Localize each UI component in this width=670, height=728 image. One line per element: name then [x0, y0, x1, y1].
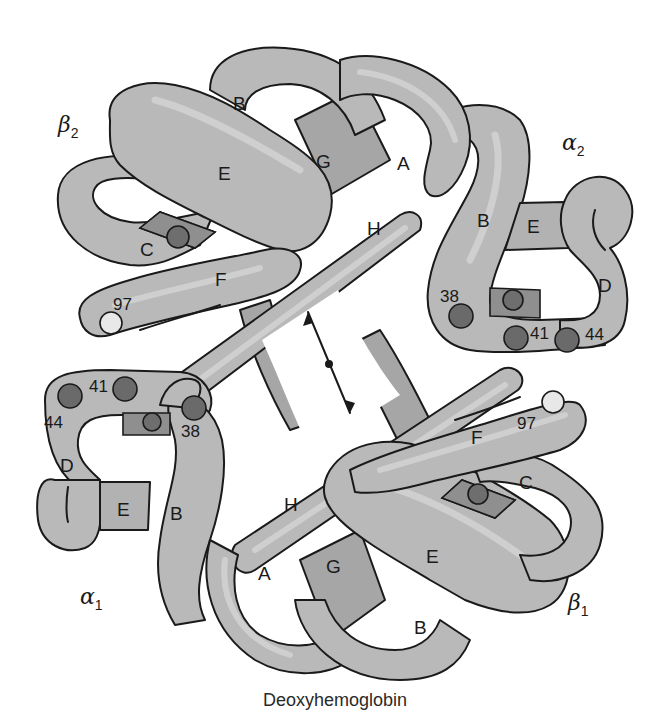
helix-label-alpha1-A: A — [258, 563, 271, 584]
residue-label-alpha2-41: 41 — [530, 324, 549, 343]
heme-iron-alpha2 — [503, 290, 523, 310]
residue-label-alpha1-44: 44 — [44, 413, 63, 432]
figure-caption: Deoxyhemoglobin — [0, 690, 670, 711]
residue-alpha2-44 — [555, 328, 579, 352]
helix-label-alpha2-E: E — [527, 216, 540, 237]
helix-label-alpha1-E: E — [117, 499, 130, 520]
dyad-axis-point — [325, 360, 333, 368]
helix-label-beta2-B: B — [233, 93, 246, 114]
heme-iron-beta1 — [468, 484, 488, 504]
heme-iron-alpha1 — [143, 413, 161, 431]
residue-alpha2-38 — [449, 304, 473, 328]
subunit-label-beta2: β2 — [57, 112, 79, 141]
residue-label-alpha2-44: 44 — [585, 325, 604, 344]
residue-label-beta2-97: 97 — [113, 295, 132, 314]
subunit-label-alpha1: α1 — [80, 584, 103, 613]
helix-label-alpha2-H: H — [367, 218, 381, 239]
helix-label-alpha1-D: D — [60, 455, 74, 476]
helix-label-beta2-F: F — [215, 269, 227, 290]
heme-iron-beta2 — [167, 226, 189, 248]
residue-alpha1-41 — [113, 377, 137, 401]
residue-label-alpha2-38: 38 — [440, 287, 459, 306]
helix-label-beta1-G: G — [326, 556, 341, 577]
helix-label-alpha1-H: H — [284, 494, 298, 515]
subunit-label-beta1: β1 — [567, 590, 589, 619]
helix-label-beta2-C: C — [140, 239, 154, 260]
subunit-beta1 — [295, 391, 603, 680]
subunit-label-alpha2: α2 — [562, 130, 585, 159]
helix-label-alpha2-A: A — [397, 153, 410, 174]
helix-label-alpha2-D: D — [598, 275, 612, 296]
residue-label-alpha1-41: 41 — [89, 377, 108, 396]
helix-label-beta1-C: C — [519, 472, 533, 493]
helix-label-beta2-G: G — [316, 151, 331, 172]
helix-label-beta1-B: B — [414, 617, 427, 638]
deoxyhemoglobin-diagram: β2 α2 α1 β1 B E C F G 97 A H B E D 38 41… — [0, 0, 670, 728]
heme-group-alpha1 — [123, 413, 170, 435]
helix-label-beta1-E: E — [426, 546, 439, 567]
residue-label-beta1-97: 97 — [517, 414, 536, 433]
residue-beta2-97 — [100, 312, 122, 334]
helix-label-alpha2-B: B — [477, 210, 490, 231]
residue-alpha1-38 — [182, 396, 206, 420]
residue-label-alpha1-38: 38 — [181, 422, 200, 441]
residue-beta1-97 — [542, 391, 564, 413]
helix-label-beta1-F: F — [471, 427, 483, 448]
subunit-alpha2 — [340, 56, 632, 352]
helix-label-alpha1-B: B — [170, 503, 183, 524]
helix-label-beta2-E: E — [218, 163, 231, 184]
residue-alpha2-41 — [504, 326, 528, 350]
heme-group-alpha2 — [490, 288, 540, 318]
residue-alpha1-44 — [58, 384, 82, 408]
